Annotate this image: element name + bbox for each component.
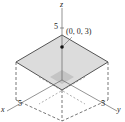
z-axis-label: z: [60, 1, 63, 9]
point-label: (0, 0, 3): [66, 28, 91, 36]
y-tick-label: 5: [101, 100, 105, 108]
y-axis-label: y: [117, 106, 121, 114]
x-tick-label: 5: [18, 100, 22, 108]
z-tick-label: 5: [54, 23, 58, 31]
x-axis-label: x: [1, 106, 5, 114]
